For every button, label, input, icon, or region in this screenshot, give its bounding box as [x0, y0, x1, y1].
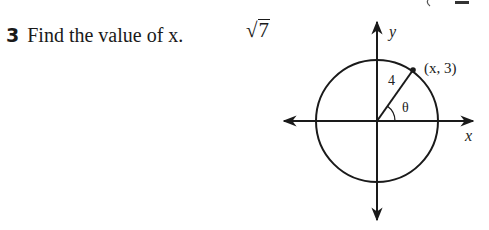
cropped-dash-fragment — [455, 1, 469, 4]
point-label: (x, 3) — [424, 60, 457, 77]
radius-label: 4 — [388, 73, 395, 88]
angle-arc — [388, 106, 396, 121]
y-axis-label: y — [387, 23, 397, 41]
angle-label: θ — [402, 100, 409, 115]
point-marker — [410, 67, 416, 73]
x-axis-label: x — [464, 127, 472, 144]
cropped-paren-fragment — [427, 0, 430, 6]
coordinate-diagram: y x (x, 3) 4 θ — [0, 0, 489, 230]
